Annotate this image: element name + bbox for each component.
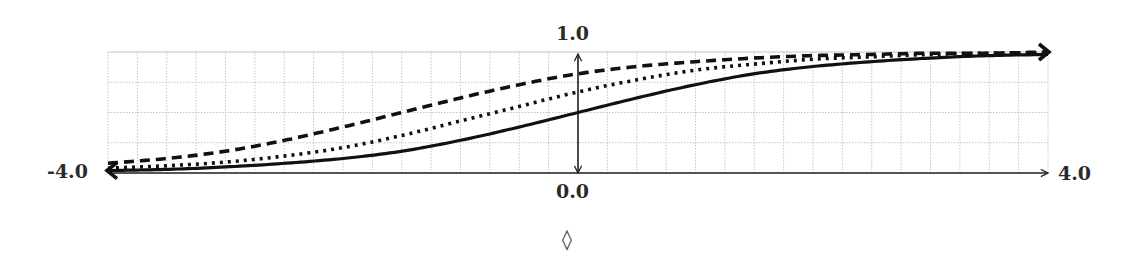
y-axis-max-label: 1.0 (556, 24, 589, 43)
y-axis-min-label: 0.0 (556, 182, 589, 201)
x-axis-min-label: -4.0 (47, 162, 88, 181)
x-axis-max-label: 4.0 (1058, 164, 1091, 183)
diamond-icon: ◊ (562, 229, 572, 249)
